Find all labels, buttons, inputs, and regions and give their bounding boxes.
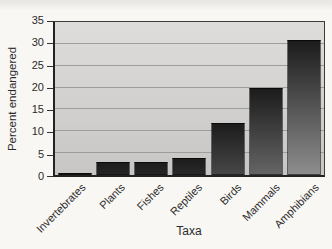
y-tick-mark (47, 66, 53, 67)
y-tick-label: 15 (0, 103, 44, 116)
bar-birds (211, 123, 245, 175)
y-tick-mark (47, 110, 53, 111)
x-category-label-birds: Birds (217, 181, 243, 207)
bar-chart-figure: Percent endangered 05101520253035 Invert… (0, 0, 332, 249)
y-tick-label: 35 (0, 14, 44, 27)
bars-layer (55, 22, 324, 175)
y-tick-mark (47, 176, 53, 177)
y-tick-label: 30 (0, 36, 44, 49)
x-category-label-plants: Plants (97, 181, 127, 211)
bar-mammals (249, 88, 283, 175)
y-tick-label: 25 (0, 59, 44, 72)
x-category-label-reptiles: Reptiles (168, 181, 205, 218)
bar-fishes (134, 162, 168, 175)
y-tick-mark (47, 21, 53, 22)
y-tick-label: 10 (0, 125, 44, 138)
x-category-label-fishes: Fishes (134, 181, 165, 212)
bar-invertebrates (58, 173, 92, 175)
bar-reptiles (172, 158, 206, 175)
y-tick-label: 20 (0, 81, 44, 94)
bar-amphibians (287, 40, 321, 176)
bar-plants (96, 162, 130, 175)
x-axis-title: Taxa (53, 224, 325, 238)
y-tick-mark (47, 88, 53, 89)
plot-area (53, 21, 325, 177)
y-tick-mark (47, 155, 53, 156)
y-tick-mark (47, 43, 53, 44)
y-tick-label: 0 (0, 170, 44, 183)
y-tick-label: 5 (0, 148, 44, 161)
y-tick-mark (47, 132, 53, 133)
